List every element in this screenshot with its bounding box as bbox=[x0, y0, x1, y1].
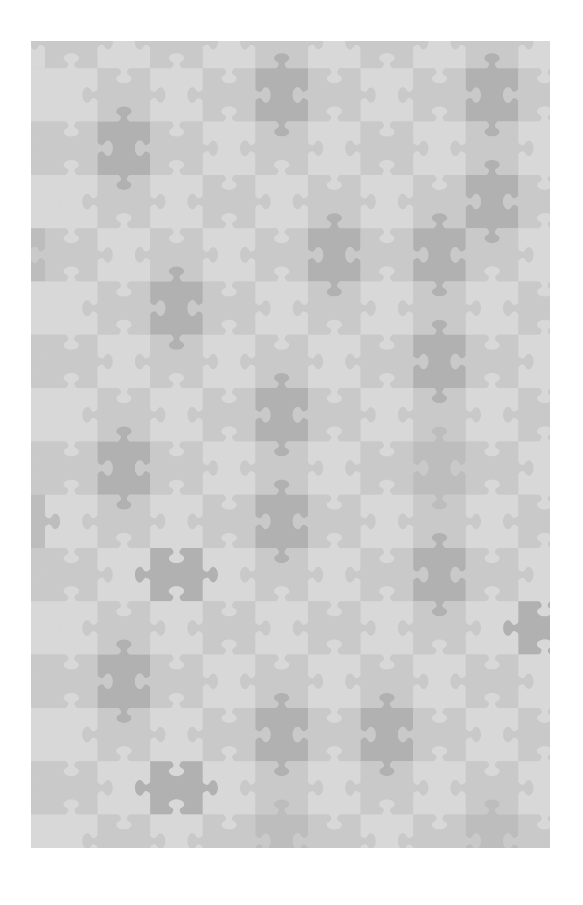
canvas bbox=[0, 0, 583, 905]
puzzle-pattern-image bbox=[31, 41, 550, 848]
puzzle-tessellation bbox=[31, 41, 550, 848]
